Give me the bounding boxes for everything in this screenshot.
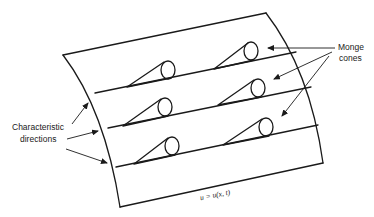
monge-cone <box>134 137 179 164</box>
solution-surface <box>63 13 323 207</box>
surface-right-edge <box>266 13 323 163</box>
label-characteristic: Characteristic <box>12 122 65 132</box>
arrow-icon <box>274 52 332 79</box>
label-monge: Monge <box>338 42 364 52</box>
surface-bottom-edge <box>120 163 323 207</box>
label-directions: directions <box>20 134 56 144</box>
characteristic-line-1 <box>95 52 296 93</box>
characteristic-line-2 <box>108 87 311 128</box>
monge-cone-arrows <box>268 48 335 116</box>
arrow-icon <box>66 149 107 163</box>
monge-cone <box>223 118 273 145</box>
label-cones: cones <box>339 53 362 63</box>
surface-top-edge <box>63 13 266 55</box>
monge-cone-diagram: Characteristic directions Monge cones u … <box>0 0 374 217</box>
monge-cones <box>123 42 273 164</box>
monge-cone <box>127 61 175 87</box>
arrow-icon <box>67 131 98 139</box>
surface-left-edge <box>63 55 120 207</box>
characteristic-lines <box>95 52 318 167</box>
monge-cone <box>214 42 258 69</box>
monge-cone <box>123 98 172 126</box>
arrow-icon <box>282 56 329 116</box>
characteristic-direction-arrows <box>66 103 107 163</box>
arrow-icon <box>72 103 88 124</box>
surface-equation-label: u = u(x, t) <box>199 187 231 202</box>
monge-cone <box>218 79 265 105</box>
